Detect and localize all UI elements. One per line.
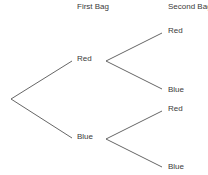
branch-red-to-blue (106, 61, 162, 89)
branch-blue-to-blue (106, 139, 162, 167)
branch-red-to-red (106, 33, 162, 61)
branch-blue-to-red (106, 111, 162, 139)
branch-root-to-blue (11, 99, 72, 138)
node-red-red: Red (168, 26, 183, 36)
node-first-blue: Blue (77, 132, 93, 142)
node-blue-blue: Blue (168, 162, 184, 172)
node-first-red: Red (77, 54, 92, 64)
node-red-blue: Blue (168, 85, 184, 95)
node-blue-red: Red (168, 104, 183, 114)
header-second-bag: Second Bag (168, 2, 208, 12)
branch-root-to-red (11, 61, 72, 99)
header-first-bag: First Bag (77, 2, 109, 12)
